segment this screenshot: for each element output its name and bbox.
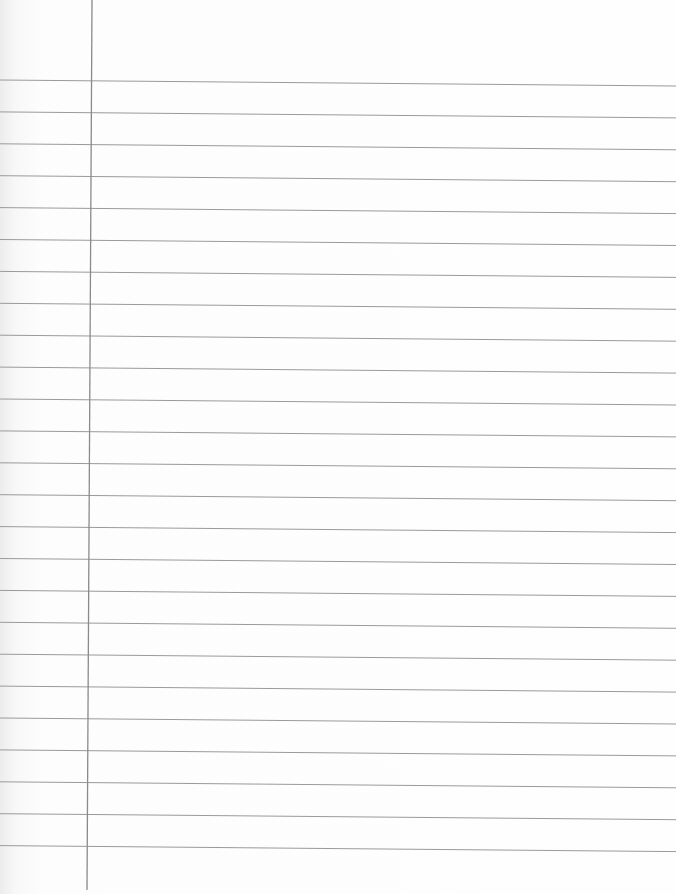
ruled-line	[0, 431, 676, 437]
ruled-lines	[0, 0, 676, 894]
ruled-line	[0, 495, 676, 501]
ruled-line	[0, 303, 676, 309]
margin-line	[87, 0, 92, 890]
ruled-line	[0, 846, 676, 852]
ruled-line	[0, 335, 676, 341]
ruled-paper-sheet	[0, 0, 676, 894]
ruled-line	[0, 654, 676, 660]
ruled-line	[0, 559, 676, 565]
ruled-line	[0, 527, 676, 533]
ruled-line	[0, 622, 676, 628]
ruled-line	[0, 80, 676, 86]
ruled-line	[0, 814, 676, 820]
ruled-line	[0, 718, 676, 724]
ruled-line	[0, 208, 676, 214]
ruled-line	[0, 782, 676, 788]
ruled-line	[0, 176, 676, 182]
ruled-line	[0, 144, 676, 150]
ruled-line	[0, 240, 676, 246]
ruled-line	[0, 590, 676, 596]
ruled-line	[0, 686, 676, 692]
ruled-line	[0, 271, 676, 277]
ruled-line	[0, 112, 676, 118]
ruled-line	[0, 750, 676, 756]
ruled-line	[0, 367, 676, 373]
ruled-line	[0, 399, 676, 405]
ruled-line	[0, 463, 676, 469]
